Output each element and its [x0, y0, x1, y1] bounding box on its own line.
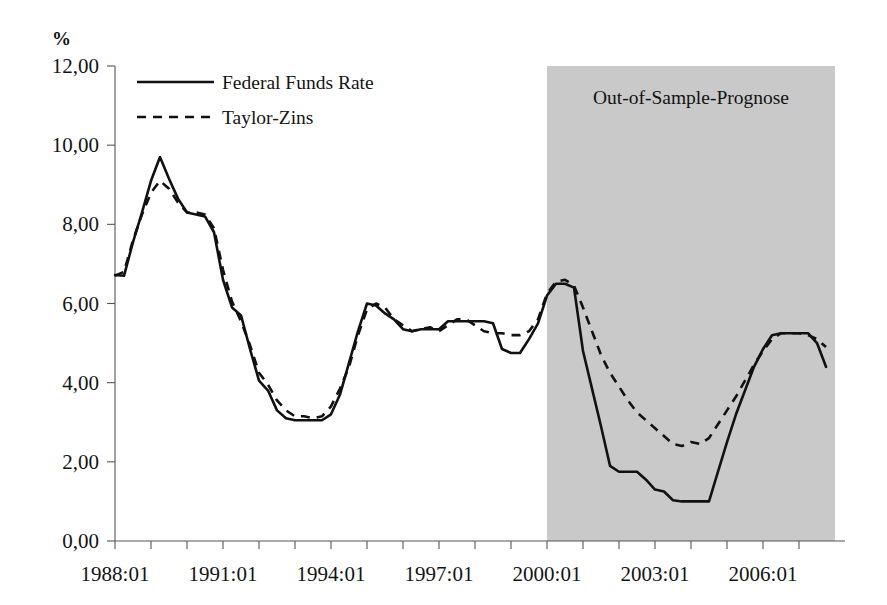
y-tick-label: 12,00: [52, 54, 99, 78]
y-tick-label: 4,00: [62, 371, 99, 395]
legend-label-federal-funds-rate: Federal Funds Rate: [222, 72, 374, 93]
x-tick-label: 2006:01: [729, 562, 798, 586]
y-tick-label: 6,00: [62, 292, 99, 316]
y-axis-unit-label: %: [52, 28, 71, 49]
y-tick-label: 10,00: [52, 133, 99, 157]
forecast-shaded-region: [547, 66, 835, 541]
x-tick-label: 1997:01: [405, 562, 474, 586]
x-tick-label: 1994:01: [297, 562, 366, 586]
x-tick-label: 2000:01: [513, 562, 582, 586]
x-tick-label: 1991:01: [189, 562, 258, 586]
x-tick-label: 1988:01: [81, 562, 150, 586]
chart-figure: 0,002,004,006,008,0010,0012,00 1988:0119…: [0, 0, 887, 605]
forecast-region-annotation: Out-of-Sample-Prognose: [593, 87, 789, 108]
y-tick-label: 2,00: [62, 450, 99, 474]
legend-label-taylor-zins: Taylor-Zins: [222, 107, 313, 128]
y-tick-label: 0,00: [62, 529, 99, 553]
x-tick-label: 2003:01: [621, 562, 690, 586]
y-tick-label: 8,00: [62, 212, 99, 236]
line-chart: 0,002,004,006,008,0010,0012,00 1988:0119…: [0, 0, 887, 605]
